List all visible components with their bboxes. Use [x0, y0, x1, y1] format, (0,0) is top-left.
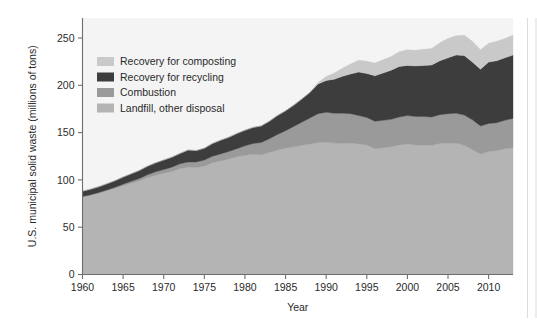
stacked-area-chart: 0501001502002501960196519701975198019851… [0, 0, 537, 325]
x-tick-label: 1995 [355, 281, 379, 293]
x-tick-label: 1965 [111, 281, 135, 293]
legend-label: Recovery for composting [120, 55, 236, 67]
x-tick-label: 1960 [71, 281, 95, 293]
y-axis-title: U.S. municipal solid waste (millions of … [26, 45, 38, 247]
x-tick-label: 2000 [396, 281, 420, 293]
x-tick-label: 1975 [193, 281, 217, 293]
legend-swatch [97, 73, 114, 82]
y-tick-label: 0 [69, 268, 75, 280]
legend-swatch [97, 88, 114, 97]
legend-swatch [97, 104, 114, 113]
legend-swatch [97, 57, 114, 66]
x-tick-label: 1970 [152, 281, 176, 293]
y-tick-label: 50 [63, 221, 75, 233]
x-axis-title: Year [287, 301, 309, 313]
x-tick-label: 1985 [274, 281, 298, 293]
x-tick-label: 2010 [477, 281, 501, 293]
chart-figure: 0501001502002501960196519701975198019851… [0, 0, 537, 325]
legend-label: Recovery for recycling [120, 71, 224, 83]
x-tick-label: 1990 [314, 281, 338, 293]
legend-label: Landfill, other disposal [120, 102, 224, 114]
y-tick-label: 250 [57, 32, 75, 44]
y-tick-label: 200 [57, 79, 75, 91]
y-tick-label: 100 [57, 174, 75, 186]
y-tick-label: 150 [57, 126, 75, 138]
x-tick-label: 2005 [436, 281, 460, 293]
legend-label: Combustion [120, 86, 176, 98]
x-tick-label: 1980 [233, 281, 257, 293]
